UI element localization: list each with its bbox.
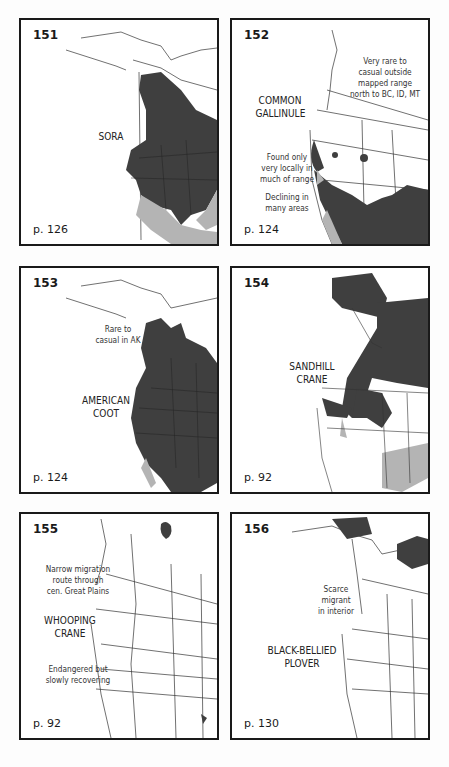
page-reference: p. 126: [33, 223, 68, 236]
page-reference: p. 92: [33, 717, 61, 730]
range-note: Narrow migration route through cen. Grea…: [41, 564, 115, 597]
map-number: 155: [33, 522, 58, 536]
range-note: Endangered but slowly recovering: [41, 664, 115, 686]
species-name: SANDHILL CRANE: [287, 360, 336, 386]
range-note: Very rare to casual outside mapped range…: [350, 56, 421, 100]
map-number: 154: [244, 276, 269, 290]
range-map: [232, 514, 428, 738]
page-reference: p. 130: [244, 717, 279, 730]
page-reference: p. 92: [244, 471, 272, 484]
map-number: 153: [33, 276, 58, 290]
species-name: WHOOPING CRANE: [41, 614, 98, 640]
map-number: 151: [33, 28, 58, 42]
range-note: Found only very locally in much of range: [258, 152, 315, 185]
map-panel-american-coot: 153 Rare to casual in AK AMERICAN COOT p…: [19, 266, 219, 494]
species-name: BLACK-BELLIED PLOVER: [261, 644, 343, 670]
map-panel-common-gallinule: 152 Very rare to casual outside mapped r…: [230, 18, 430, 246]
page-reference: p. 124: [244, 223, 279, 236]
map-panel-whooping-crane: 155 Narrow migration route through cen. …: [19, 512, 219, 740]
species-name: COMMON GALLINULE: [255, 94, 304, 120]
map-number: 156: [244, 522, 269, 536]
range-note: Scarce migrant in interior: [311, 584, 360, 617]
page-reference: p. 124: [33, 471, 68, 484]
map-panel-black-bellied-plover: 156 Scarce migrant in interior BLACK-BEL…: [230, 512, 430, 740]
range-note: Rare to casual in AK: [89, 324, 146, 346]
range-map: [21, 268, 217, 492]
species-name: AMERICAN COOT: [77, 394, 134, 420]
map-panel-sandhill-crane: 154 SANDHILL CRANE p. 92: [230, 266, 430, 494]
map-panel-sora: 151 SORA p. 126: [19, 18, 219, 246]
map-number: 152: [244, 28, 269, 42]
range-note: Declining in many areas: [258, 192, 315, 214]
species-name: SORA: [86, 130, 135, 143]
